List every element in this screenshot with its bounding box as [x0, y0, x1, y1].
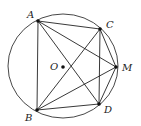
- segment-AC: [38, 21, 100, 29]
- segment-AB: [37, 21, 38, 110]
- point-C: [98, 27, 102, 31]
- label-M: M: [121, 62, 133, 73]
- point-M: [114, 65, 118, 69]
- point-O: [61, 65, 65, 69]
- point-A: [36, 19, 40, 23]
- label-D: D: [103, 104, 112, 115]
- segment-BC: [37, 29, 100, 110]
- segment-CM: [100, 29, 116, 67]
- label-C: C: [106, 19, 114, 30]
- segment-CD: [99, 29, 100, 104]
- segment-AD: [38, 21, 99, 104]
- point-B: [35, 108, 39, 112]
- point-D: [97, 102, 101, 106]
- geometry-figure: ABCMDO: [0, 0, 141, 126]
- label-A: A: [26, 9, 34, 20]
- label-O: O: [50, 61, 58, 72]
- label-B: B: [24, 112, 32, 123]
- segments: [37, 21, 116, 110]
- segment-MD: [99, 67, 116, 104]
